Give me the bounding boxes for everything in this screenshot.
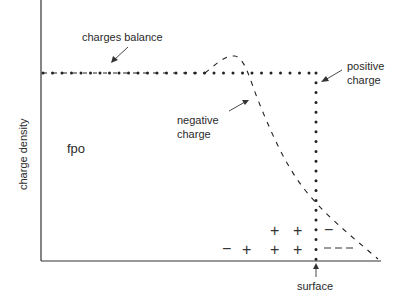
negative-charge-label-line2: charge [177,128,211,140]
plus-symbol: + [293,222,302,239]
charge-density-diagram: charge density fpo charges balance posit… [0,0,405,302]
minus-symbol: − [324,221,333,238]
positive-charge-arrow [325,70,342,80]
plus-symbol: + [270,222,279,239]
plus-symbol: + [270,241,279,258]
surface-label: surface [297,280,333,292]
negative-charge-dashed-curve [205,56,378,259]
positive-charge-arrowhead-icon [321,76,329,82]
plus-symbol: + [293,241,302,258]
surface-arrowhead-icon [313,263,319,269]
positive-charge-label-line2: charge [347,74,381,86]
y-axis-label: charge density [17,118,29,190]
negative-charge-arrow [229,102,245,111]
positive-charge-label-line1: positive [347,60,384,72]
charges-balance-label: charges balance [82,31,163,43]
charges-balance-arrow [114,47,128,60]
negative-charge-label-line1: negative [177,114,219,126]
plus-symbol: + [242,241,251,258]
negative-charge-arrowhead-icon [242,100,249,105]
fpo-placeholder: fpo [67,141,85,156]
minus-symbol: − [222,240,231,257]
